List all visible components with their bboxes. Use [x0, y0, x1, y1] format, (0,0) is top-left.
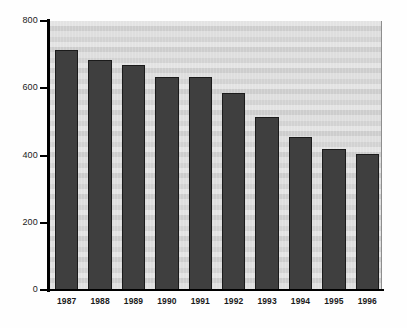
- y-tick-label-200: 200: [4, 217, 38, 227]
- bar-1988: [88, 60, 111, 290]
- y-tick-800: [40, 20, 48, 22]
- y-axis-labels: 0200400600800: [0, 0, 38, 328]
- y-tick-label-400: 400: [4, 150, 38, 160]
- x-tick-label-1996: 1996: [347, 296, 387, 306]
- x-axis-line: [45, 289, 384, 291]
- plot-border-right: [381, 21, 382, 290]
- y-tick-600: [40, 87, 48, 89]
- y-tick-0: [40, 289, 48, 291]
- y-tick-200: [40, 222, 48, 224]
- bar-1992: [222, 93, 245, 290]
- bar-chart: 0200400600800 19871988198919901991199219…: [0, 0, 407, 328]
- y-tick-label-800: 800: [4, 15, 38, 25]
- bar-1990: [155, 77, 178, 291]
- y-tick-label-0: 0: [4, 284, 38, 294]
- bar-1989: [122, 65, 145, 290]
- plot-area: [48, 21, 382, 290]
- y-tick-label-600: 600: [4, 82, 38, 92]
- bar-1994: [289, 137, 312, 290]
- bar-1991: [189, 77, 212, 291]
- bar-1996: [356, 154, 379, 290]
- bar-1995: [322, 149, 345, 290]
- bar-1993: [255, 117, 278, 290]
- bar-1987: [55, 50, 78, 290]
- y-tick-400: [40, 155, 48, 157]
